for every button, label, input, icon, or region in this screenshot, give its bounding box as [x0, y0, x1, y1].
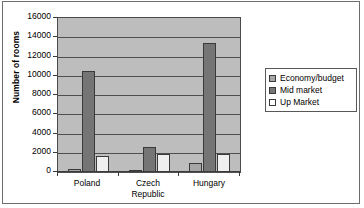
y-axis-tick-label: 2000 [5, 146, 51, 156]
bar-chart-figure: Number of rooms 160001400012000100008000… [0, 0, 364, 208]
x-axis-tick [178, 172, 179, 176]
y-axis-tick-label: 12000 [5, 50, 51, 60]
bar-mid-market-hungary [203, 43, 216, 172]
bar-up-market-czech-republic [157, 154, 170, 172]
legend-item[interactable]: Mid market [269, 84, 352, 96]
x-axis-tick-label: Hungary [169, 178, 249, 189]
x-axis-tick [57, 172, 58, 176]
legend-item-label: Economy/budget [280, 73, 344, 83]
chart-legend: Economy/budgetMid marketUp Market [265, 68, 357, 112]
economy-swatch-icon [269, 75, 276, 82]
x-axis-tick [118, 172, 119, 176]
x-axis-tick-label-line: Hungary [169, 178, 249, 189]
bar-mid-market-czech-republic [143, 147, 156, 172]
bar-mid-market-poland [82, 71, 95, 172]
y-axis-labels: 1600014000120001000080006000400020000 [0, 0, 51, 208]
x-axis-tick-label-line: Republic [108, 189, 188, 200]
up-market-swatch-icon [269, 99, 276, 106]
plot-area [57, 17, 241, 173]
mid-market-swatch-icon [269, 87, 276, 94]
gridline [58, 172, 240, 173]
legend-item-label: Mid market [280, 85, 322, 95]
y-axis-tick-label: 4000 [5, 127, 51, 137]
x-axis-line [57, 171, 240, 172]
y-axis-tick-label: 6000 [5, 107, 51, 117]
y-axis-tick-label: 8000 [5, 88, 51, 98]
y-axis-tick-label: 0 [5, 165, 51, 175]
bar-up-market-hungary [217, 154, 230, 172]
bars-layer [58, 18, 240, 172]
legend-item-label: Up Market [280, 97, 319, 107]
y-axis-tick-label: 10000 [5, 69, 51, 79]
legend-item[interactable]: Economy/budget [269, 72, 352, 84]
legend-item[interactable]: Up Market [269, 96, 352, 108]
y-axis-tick-label: 14000 [5, 30, 51, 40]
bar-up-market-poland [96, 156, 109, 172]
x-axis-tick [239, 172, 240, 176]
y-axis-tick-label: 16000 [5, 11, 51, 21]
